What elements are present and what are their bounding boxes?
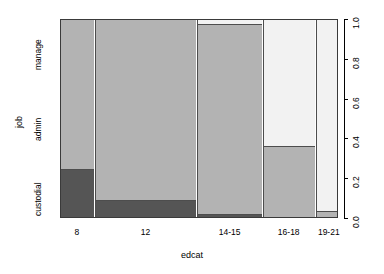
mosaic-bar[interactable]: [60, 19, 94, 218]
y-axis-tick: [344, 178, 348, 179]
y-category-label-custodial: custodial: [34, 183, 43, 217]
plot-panel: [60, 19, 338, 218]
y-category-label-admin: admin: [34, 117, 43, 140]
y-axis-tick-label: 0.8: [352, 57, 361, 69]
bar-divider: [316, 19, 317, 218]
y-axis-tick: [344, 19, 348, 20]
mosaic-bar[interactable]: [263, 19, 315, 218]
mosaic-bar[interactable]: [316, 19, 338, 218]
y-axis-tick-label: 0.4: [352, 137, 361, 149]
mosaic-segment-manage[interactable]: [263, 19, 315, 146]
mosaic-segment-admin[interactable]: [60, 19, 94, 169]
x-axis-tick-label: 12: [106, 228, 186, 237]
mosaic-segment-manage[interactable]: [316, 19, 338, 211]
y-axis-tick: [344, 138, 348, 139]
mosaic-segment-manage[interactable]: [197, 19, 261, 24]
bar-divider: [95, 19, 96, 218]
y-axis-tick-label: 0.2: [352, 176, 361, 188]
mosaic-bar[interactable]: [197, 19, 261, 218]
mosaic-segment-custodial[interactable]: [60, 169, 94, 218]
mosaic-segment-admin[interactable]: [197, 24, 261, 214]
y-axis-tick: [344, 99, 348, 100]
y-axis-tick: [344, 59, 348, 60]
y-axis-tick: [344, 218, 348, 219]
spineplot-figure: job custodialadminmanage 0.00.20.40.60.8…: [0, 0, 384, 274]
y-axis-tick-label: 0.6: [352, 97, 361, 109]
mosaic-segment-admin[interactable]: [95, 19, 197, 200]
y-category-label-manage: manage: [34, 39, 43, 70]
mosaic-segment-admin[interactable]: [316, 211, 338, 218]
y-axis-tick-label: 1.0: [352, 17, 361, 29]
x-axis-tick-label: 19-21: [289, 228, 369, 237]
mosaic-segment-custodial[interactable]: [197, 214, 261, 218]
bar-divider: [197, 19, 198, 218]
bar-divider: [263, 19, 264, 218]
y-axis-title: job: [14, 115, 24, 127]
x-axis-title: edcat: [0, 250, 384, 260]
mosaic-segment-custodial[interactable]: [95, 200, 197, 218]
y-axis-line: [344, 19, 345, 218]
mosaic-segment-admin[interactable]: [263, 146, 315, 218]
mosaic-bar[interactable]: [95, 19, 197, 218]
y-axis-tick-label: 0.0: [352, 216, 361, 228]
